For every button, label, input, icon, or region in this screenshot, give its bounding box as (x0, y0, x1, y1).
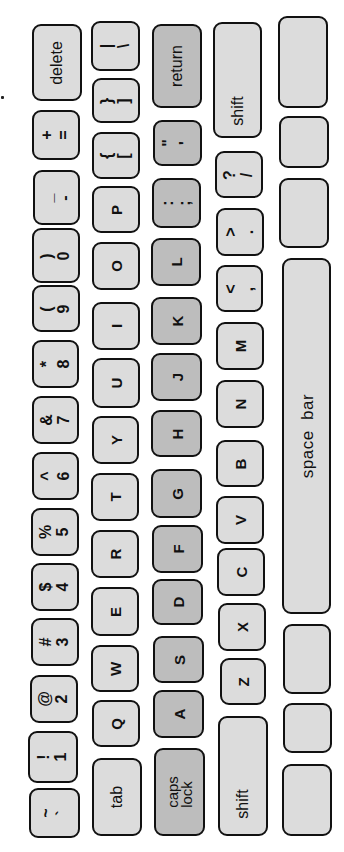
key-minus[interactable]: _- (33, 170, 80, 225)
key-m[interactable]: M (216, 322, 264, 370)
key-a[interactable]: A (153, 690, 204, 738)
key-label: Z (236, 677, 251, 686)
key-j[interactable]: J (151, 353, 202, 401)
key-label: V (233, 515, 248, 525)
key-w[interactable]: W (91, 645, 139, 692)
key-blank-right-3[interactable] (279, 178, 329, 248)
key-i[interactable]: I (92, 302, 140, 350)
key-label: Y (108, 435, 123, 445)
key-char: 0 (56, 251, 73, 260)
key-label: M (233, 340, 248, 353)
key-backslash[interactable]: |\ (91, 21, 140, 71)
key-f[interactable]: F (152, 525, 203, 573)
key-char: 4 (55, 583, 72, 592)
key-label: H (169, 428, 184, 439)
key-label: L (169, 257, 184, 266)
key-char: ` (55, 810, 72, 815)
key-label: Q (109, 718, 124, 730)
key-c[interactable]: C (217, 548, 265, 596)
key-shift-char: % (38, 525, 55, 539)
key-blank-right-2[interactable] (279, 116, 329, 168)
key-shift-char: & (39, 414, 56, 426)
key-label: B (233, 458, 248, 469)
key-space-bar[interactable]: space bar (282, 258, 331, 614)
key-label: tab (109, 786, 125, 808)
key-u[interactable]: U (92, 358, 140, 408)
key-right-shift[interactable]: shift (213, 22, 262, 138)
key-return[interactable]: return (152, 24, 202, 108)
key-label: G (169, 488, 184, 500)
key-backtick[interactable]: ~` (29, 788, 80, 838)
key-char: 7 (56, 416, 73, 425)
key-n[interactable]: N (216, 380, 264, 428)
key-char: 2 (54, 695, 71, 704)
key-label: shift (235, 789, 251, 818)
key-s[interactable]: S (153, 636, 204, 683)
key-g[interactable]: G (151, 469, 202, 518)
key-tab[interactable]: tab (92, 758, 142, 836)
key-e[interactable]: E (91, 587, 139, 636)
key-equals[interactable]: += (32, 110, 80, 160)
key-3[interactable]: #3 (31, 618, 79, 666)
key-blank-right-1[interactable] (278, 16, 328, 108)
key-delete[interactable]: delete (32, 24, 82, 101)
key-q[interactable]: Q (92, 700, 140, 747)
key-label: I (109, 324, 124, 328)
key-char: - (57, 195, 74, 200)
key-blank-left-1[interactable] (283, 624, 331, 694)
key-r[interactable]: R (91, 530, 139, 578)
key-shift-char: > (223, 227, 240, 236)
key-shift-char: ^ (39, 471, 56, 480)
key-shift-char: ( (39, 306, 56, 311)
key-8[interactable]: *8 (32, 340, 79, 388)
key-t[interactable]: T (91, 473, 139, 521)
key-open-bracket[interactable]: {[ (92, 132, 140, 179)
key-shift-char: " (161, 139, 178, 147)
key-left-shift[interactable]: shift (218, 716, 268, 836)
key-k[interactable]: K (151, 297, 202, 345)
key-char: ] (116, 98, 133, 103)
key-d[interactable]: D (152, 579, 203, 625)
key-label: K (169, 316, 184, 327)
key-blank-left-2[interactable] (283, 703, 332, 753)
key-blank-left-3[interactable] (282, 764, 332, 836)
key-label: R (108, 549, 123, 560)
key-l[interactable]: L (151, 238, 201, 286)
key-label: J (169, 373, 184, 381)
key-label: space bar (298, 394, 315, 478)
key-label: S (171, 654, 186, 664)
key-v[interactable]: V (216, 496, 264, 544)
key-p[interactable]: P (92, 186, 140, 233)
key-period[interactable]: >. (216, 208, 264, 256)
key-9[interactable]: (9 (32, 285, 80, 332)
key-x[interactable]: X (218, 603, 266, 651)
key-6[interactable]: ^6 (32, 452, 79, 500)
key-2[interactable]: @2 (30, 675, 78, 723)
key-0[interactable]: )0 (32, 228, 80, 283)
key-shift-char: < (223, 284, 240, 293)
key-char: 6 (56, 472, 73, 481)
key-7[interactable]: &7 (32, 396, 79, 444)
stray-mark (1, 96, 4, 99)
key-shift-char: # (38, 638, 55, 647)
key-4[interactable]: $4 (31, 563, 79, 611)
key-o[interactable]: O (92, 242, 140, 290)
key-char: \ (116, 44, 133, 48)
key-1[interactable]: !1 (28, 731, 78, 783)
key-y[interactable]: Y (92, 416, 139, 464)
key-comma[interactable]: <, (216, 265, 263, 312)
key-shift-char: * (39, 361, 56, 367)
key-close-bracket[interactable]: }] (92, 78, 140, 123)
key-h[interactable]: H (151, 410, 202, 457)
key-slash[interactable]: ?/ (215, 151, 263, 198)
key-shift-char: ? (222, 170, 239, 180)
key-z[interactable]: Z (220, 658, 266, 705)
key-shift-char: + (39, 130, 56, 139)
key-caps-lock[interactable]: caps lock (154, 748, 205, 836)
key-label: N (233, 399, 248, 410)
key-5[interactable]: %5 (31, 508, 79, 556)
key-quote[interactable]: "' (153, 120, 202, 166)
key-semicolon[interactable]: :; (152, 178, 201, 228)
key-b[interactable]: B (216, 440, 264, 487)
key-shift-char: ~ (38, 808, 55, 817)
